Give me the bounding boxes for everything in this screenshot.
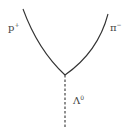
pion-symbol: π: [110, 22, 117, 33]
proton-label: p+: [8, 23, 19, 33]
lambda-charge: 0: [80, 94, 84, 101]
lambda-label: Λ0: [73, 96, 84, 106]
decay-diagram: [0, 0, 124, 131]
proton-charge: +: [14, 21, 19, 28]
pion-label: π−: [110, 23, 122, 33]
pion-charge: −: [117, 21, 122, 28]
proton-track: [23, 9, 65, 75]
pion-track: [65, 14, 108, 75]
